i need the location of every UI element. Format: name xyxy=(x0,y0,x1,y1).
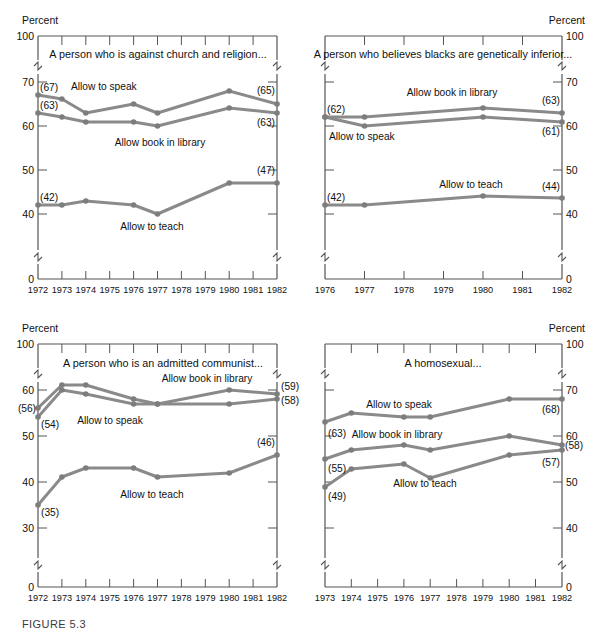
panel2-book-end-value: (63) xyxy=(542,95,560,106)
panel1-ytick-70: 70 xyxy=(22,76,34,88)
panel4-ylabel: Percent xyxy=(549,322,585,334)
panel4-year-0: 1973 xyxy=(315,593,335,603)
panel2-ytick-100: 100 xyxy=(566,30,584,42)
panel2-teach-start-value: (42) xyxy=(327,192,345,203)
panel2-svg: Percent xyxy=(307,14,607,314)
panel2-series-book-line xyxy=(325,108,562,117)
panel1-right-break-top xyxy=(273,62,281,70)
panel1-svg: Percent xyxy=(0,14,300,314)
panel1-bottom-ticks xyxy=(62,271,253,279)
panel3-book-start-value: (56) xyxy=(18,403,36,414)
panel4-year-9: 1982 xyxy=(552,593,572,603)
panel2-label-book: Allow book in library xyxy=(407,87,498,98)
panel4-right-break-bottom xyxy=(558,561,566,569)
panel1-x-tick-labels: 1972 1973 1974 1975 1976 1977 1978 1979 … xyxy=(28,285,287,295)
panel1-ytick-50: 50 xyxy=(22,164,34,176)
panel2-ytick-50: 50 xyxy=(566,164,578,176)
panel3-top-ticks xyxy=(62,344,253,353)
panel1-label-book: Allow book in library xyxy=(115,137,206,148)
panel4-top-ticks xyxy=(351,344,535,353)
panel1-title: A person who is against church and relig… xyxy=(49,48,266,60)
panel1-axis-break-top xyxy=(34,62,42,70)
panel4-year-3: 1976 xyxy=(394,593,414,603)
panel1-teach-start-value: (42) xyxy=(40,192,58,203)
panel4-bottom-ticks xyxy=(351,579,535,587)
panel3-axis-break-top xyxy=(34,370,42,378)
panel1-book-start-value: (63) xyxy=(40,100,58,111)
panel4-speak-end-value: (68) xyxy=(542,404,560,415)
panel4-ytick-50: 50 xyxy=(566,476,578,488)
panel4-teach-start-value: (49) xyxy=(328,491,346,502)
chart-panel-top-right: Percent xyxy=(307,14,607,314)
panel2-year-6: 1982 xyxy=(552,285,572,295)
panel4-book-start-value: (55) xyxy=(328,463,346,474)
panel4-year-1: 1974 xyxy=(341,593,361,603)
panel3-ytick-30: 30 xyxy=(22,522,34,534)
panel1-year-1: 1973 xyxy=(52,285,72,295)
panel2-left-break-top xyxy=(321,62,329,70)
panel4-ytick-100: 100 xyxy=(566,338,584,350)
panel3-x-tick-labels: 1972 1973 1974 1975 1976 1977 1978 1979 … xyxy=(28,593,287,603)
panel1-year-9: 1981 xyxy=(243,285,263,295)
panel4-left-break-bottom xyxy=(321,561,329,569)
chart-panel-top-left: Percent xyxy=(0,14,300,314)
panel3-year-2: 1974 xyxy=(76,593,96,603)
panel3-teach-end-value: (46) xyxy=(257,437,275,448)
panel2-year-1: 1977 xyxy=(354,285,374,295)
panel2-year-5: 1981 xyxy=(512,285,532,295)
chart-panel-bottom-right: Percent xyxy=(307,320,607,620)
panel2-right-break-bottom xyxy=(558,253,566,261)
panel4-year-7: 1980 xyxy=(499,593,519,603)
panel1-book-end-value: (63) xyxy=(257,117,275,128)
panel1-ytick-60: 60 xyxy=(22,120,34,132)
panel1-y-ticks xyxy=(38,82,277,214)
panel2-y-ticks xyxy=(325,82,562,214)
panel4-label-book: Allow book in library xyxy=(352,429,443,440)
panel4-label-teach: Allow to teach xyxy=(393,478,456,489)
panel4-ytick-40: 40 xyxy=(566,522,578,534)
panel2-left-break-bottom xyxy=(321,253,329,261)
panel4-year-5: 1978 xyxy=(446,593,466,603)
panel3-book-end-value: (59) xyxy=(281,381,299,392)
panel4-series-speak-line xyxy=(325,399,562,422)
panel3-right-break-bottom xyxy=(273,561,281,569)
panel4-left-break-top xyxy=(321,370,329,378)
panel3-label-book: Allow book in library xyxy=(162,373,253,384)
panel4-x-tick-labels: 1973 1974 1975 1976 1977 1978 1979 1980 … xyxy=(315,593,572,603)
panel1-ytick-40: 40 xyxy=(22,208,34,220)
panel2-year-2: 1978 xyxy=(394,285,414,295)
panel1-year-7: 1979 xyxy=(195,285,215,295)
panel1-year-2: 1974 xyxy=(76,285,96,295)
panel1-ylabel: Percent xyxy=(22,14,58,26)
panel1-top-ticks xyxy=(62,36,253,45)
panel4-svg: Percent xyxy=(307,320,607,620)
panel1-year-10: 1982 xyxy=(267,285,287,295)
panel3-year-8: 1980 xyxy=(219,593,239,603)
panel4-speak-start-value: (63) xyxy=(328,428,346,439)
panel4-ytick-0: 0 xyxy=(566,581,572,593)
panel3-speak-end-value: (58) xyxy=(281,395,299,406)
panel3-year-4: 1976 xyxy=(123,593,143,603)
panel3-ylabel: Percent xyxy=(22,322,58,334)
panel3-label-teach: Allow to teach xyxy=(120,489,183,500)
panel2-title: A person who believes blacks are genetic… xyxy=(314,48,573,60)
panel3-label-speak: Allow to speak xyxy=(77,415,144,426)
panel1-year-0: 1972 xyxy=(28,285,48,295)
panel1-ytick-0: 0 xyxy=(28,273,34,285)
panel3-year-5: 1977 xyxy=(147,593,167,603)
panel2-right-break-top xyxy=(558,62,566,70)
panel1-label-teach: Allow to teach xyxy=(120,221,183,232)
panel1-series-teach-markers xyxy=(35,180,280,217)
panel2-x-tick-labels: 1976 1977 1978 1979 1980 1981 1982 xyxy=(315,285,572,295)
panel1-speak-start-value: (67) xyxy=(40,82,58,93)
panel3-svg: Percent xyxy=(0,320,300,620)
panel4-year-2: 1975 xyxy=(367,593,387,603)
panel1-series-teach-line xyxy=(38,183,277,214)
panel3-year-1: 1973 xyxy=(52,593,72,603)
panel1-year-3: 1975 xyxy=(99,285,119,295)
panel1-year-5: 1977 xyxy=(147,285,167,295)
panel2-ytick-0: 0 xyxy=(566,273,572,285)
panel1-year-4: 1976 xyxy=(123,285,143,295)
panel3-ytick-50: 50 xyxy=(22,430,34,442)
panel1-teach-end-value: (47) xyxy=(257,165,275,176)
